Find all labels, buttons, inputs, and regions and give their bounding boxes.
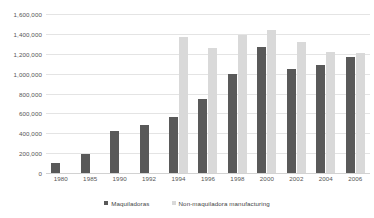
- y-axis-tick-label: 1,600,000: [14, 11, 42, 18]
- bar-group: [134, 14, 163, 173]
- bar-group: [193, 14, 222, 173]
- y-axis-tick-label: 400,000: [19, 130, 42, 137]
- bar-group: [311, 14, 340, 173]
- bar-maquiladoras: [346, 57, 355, 173]
- bar-non-maquiladora: [267, 30, 276, 173]
- bar-maquiladoras: [198, 99, 207, 173]
- bar-maquiladoras: [81, 154, 90, 173]
- bar-non-maquiladora: [238, 35, 247, 173]
- bar-group: [282, 14, 311, 173]
- y-axis-tick-label: 800,000: [19, 90, 42, 97]
- x-axis-tick-label: 1985: [75, 175, 104, 187]
- bar-maquiladoras: [257, 47, 266, 173]
- bar-maquiladoras: [316, 65, 325, 173]
- legend-label: Maquiladoras: [111, 200, 149, 207]
- bar-group: [164, 14, 193, 173]
- x-axis-tick-label: 1980: [46, 175, 75, 187]
- plot-area: [46, 14, 370, 173]
- y-axis-tick-label: 600,000: [19, 110, 42, 117]
- bar-group: [46, 14, 75, 173]
- legend-item[interactable]: Non-maquiladora manufacturing: [172, 200, 270, 207]
- bar-group: [252, 14, 281, 173]
- bar-group: [105, 14, 134, 173]
- x-axis-tick-label: 2004: [311, 175, 340, 187]
- chart-legend: MaquiladorasNon-maquiladora manufacturin…: [0, 197, 374, 209]
- bar-group: [341, 14, 370, 173]
- legend-swatch-icon: [104, 201, 108, 205]
- bar-chart: 0200,000400,000600,000800,0001,000,0001,…: [0, 0, 374, 218]
- y-axis-tick-label: 1,400,000: [14, 30, 42, 37]
- bar-non-maquiladora: [356, 53, 365, 173]
- y-axis: 0200,000400,000600,000800,0001,000,0001,…: [0, 14, 42, 173]
- legend-label: Non-maquiladora manufacturing: [179, 200, 270, 207]
- x-axis-tick-label: 1996: [193, 175, 222, 187]
- x-axis-tick-label: 1994: [164, 175, 193, 187]
- bar-group: [75, 14, 104, 173]
- bar-maquiladoras: [287, 69, 296, 173]
- x-axis-tick-label: 1992: [134, 175, 163, 187]
- y-axis-tick-label: 1,200,000: [14, 50, 42, 57]
- y-axis-tick-label: 1,000,000: [14, 70, 42, 77]
- bar-maquiladoras: [110, 131, 119, 173]
- x-axis-tick-label: 1990: [105, 175, 134, 187]
- bar-non-maquiladora: [179, 37, 188, 173]
- bar-maquiladoras: [169, 117, 178, 173]
- bar-maquiladoras: [51, 163, 60, 173]
- bar-group: [223, 14, 252, 173]
- legend-swatch-icon: [172, 201, 176, 205]
- bars-layer: [46, 14, 370, 173]
- y-axis-tick-label: 200,000: [19, 150, 42, 157]
- x-axis-tick-label: 2002: [282, 175, 311, 187]
- x-axis-tick-label: 1998: [223, 175, 252, 187]
- bar-non-maquiladora: [326, 52, 335, 173]
- legend-item[interactable]: Maquiladoras: [104, 200, 149, 207]
- y-axis-tick-label: 0: [38, 170, 42, 177]
- axis-baseline: [46, 173, 370, 174]
- bar-maquiladoras: [228, 74, 237, 173]
- bar-maquiladoras: [140, 125, 149, 173]
- x-axis: 1980198519901992199419961998200020022004…: [46, 175, 370, 187]
- x-axis-tick-label: 2000: [252, 175, 281, 187]
- bar-non-maquiladora: [297, 42, 306, 173]
- bar-non-maquiladora: [208, 48, 217, 173]
- x-axis-tick-label: 2006: [341, 175, 370, 187]
